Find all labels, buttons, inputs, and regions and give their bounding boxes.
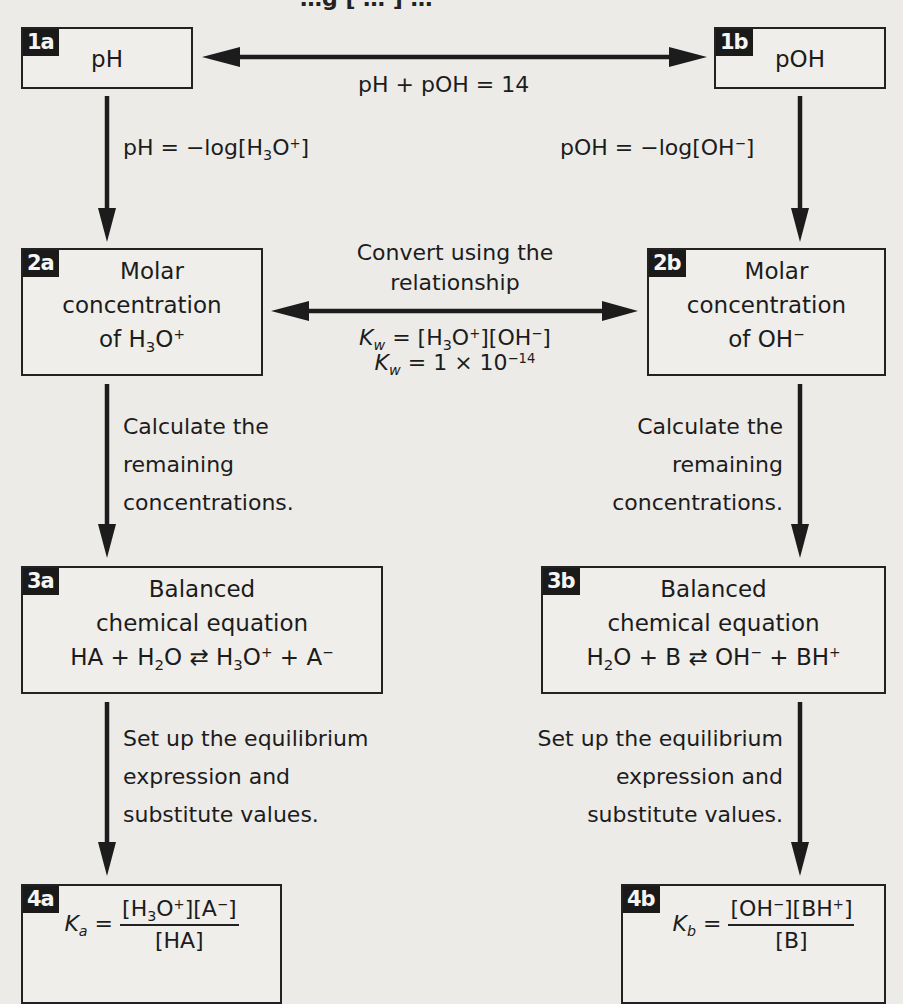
edge-label-kw-value: Kw = 1 × 10−14	[330, 348, 580, 378]
edge-label-calc-remaining-right: Calculate the remaining concentrations.	[612, 408, 783, 522]
node-line-3: of H3O+	[23, 324, 261, 354]
ka-expression: Ka = [H3O+][A−] [HA]	[23, 894, 280, 956]
node-label: pOH	[716, 44, 884, 74]
edge-label-poh-formula: pOH = −log[OH−]	[560, 133, 754, 163]
node-label: pH	[23, 44, 191, 74]
node-line-2: concentration	[649, 290, 884, 320]
node-4a-ka-expression: 4a Ka = [H3O+][A−] [HA]	[21, 884, 282, 1004]
ka-fraction: [H3O+][A−] [HA]	[120, 894, 239, 956]
kb-fraction: [OH−][BH+] [B]	[728, 894, 854, 956]
node-line-2: concentration	[23, 290, 261, 320]
node-line-3: of OH−	[649, 324, 884, 354]
node-line-1: Balanced	[543, 574, 884, 604]
node-line-2: chemical equation	[543, 608, 884, 638]
kb-expression: Kb = [OH−][BH+] [B]	[623, 894, 884, 956]
node-1a-ph: 1a pH	[21, 27, 193, 89]
edge-label-ph-formula: pH = −log[H3O+]	[123, 133, 309, 163]
node-2b-oh-concentration: 2b Molar concentration of OH−	[647, 248, 886, 376]
node-1b-poh: 1b pOH	[714, 27, 886, 89]
node-4b-kb-expression: 4b Kb = [OH−][BH+] [B]	[621, 884, 886, 1004]
edge-label-setup-equilibrium-left: Set up the equilibrium expression and su…	[123, 720, 368, 834]
node-line-2: chemical equation	[23, 608, 381, 638]
edge-label-calc-remaining-left: Calculate the remaining concentrations.	[123, 408, 294, 522]
base-equation: H2O + B ⇄ OH− + BH+	[543, 642, 884, 672]
node-2a-h3o-concentration: 2a Molar concentration of H3O+	[21, 248, 263, 376]
edge-label-ph-poh-sum: pH + pOH = 14	[358, 70, 529, 100]
node-3b-base-equation: 3b Balanced chemical equation H2O + B ⇄ …	[541, 566, 886, 694]
node-line-1: Molar	[23, 256, 261, 286]
node-line-1: Balanced	[23, 574, 381, 604]
acid-equation: HA + H2O ⇄ H3O+ + A−	[23, 642, 381, 672]
edge-label-convert-text: Convert using the relationship	[330, 238, 580, 298]
edge-label-setup-equilibrium-right: Set up the equilibrium expression and su…	[538, 720, 783, 834]
node-line-1: Molar	[649, 256, 884, 286]
node-3a-acid-equation: 3a Balanced chemical equation HA + H2O ⇄…	[21, 566, 383, 694]
